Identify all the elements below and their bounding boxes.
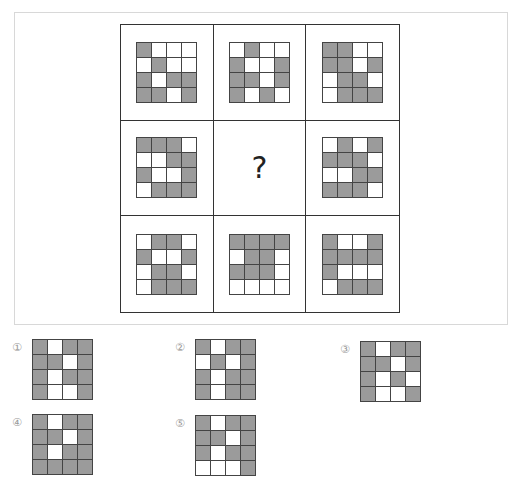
shaded-square xyxy=(241,446,256,461)
option-number: ① xyxy=(12,341,32,355)
empty-square xyxy=(353,43,368,58)
empty-square xyxy=(152,43,167,58)
answer-option-3[interactable]: ③ xyxy=(340,341,421,402)
shaded-square xyxy=(338,58,353,73)
pattern-grid xyxy=(229,42,290,103)
pattern-grid xyxy=(136,234,197,295)
empty-square xyxy=(338,235,353,250)
empty-square xyxy=(211,416,226,431)
empty-square xyxy=(152,73,167,88)
empty-square xyxy=(152,250,167,265)
empty-square xyxy=(376,387,391,402)
shaded-square xyxy=(368,138,383,153)
shaded-square xyxy=(152,138,167,153)
pattern-grid xyxy=(136,42,197,103)
empty-square xyxy=(406,372,421,387)
empty-square xyxy=(391,387,406,402)
shaded-square xyxy=(152,265,167,280)
shaded-square xyxy=(338,153,353,168)
shaded-square xyxy=(152,88,167,103)
empty-square xyxy=(63,385,78,400)
puzzle-cell-r3c2 xyxy=(214,216,307,312)
shaded-square xyxy=(167,235,182,250)
shaded-square xyxy=(353,88,368,103)
option-number: ② xyxy=(175,341,195,355)
pattern-grid xyxy=(229,234,290,295)
shaded-square xyxy=(338,250,353,265)
option-number: ⑤ xyxy=(175,417,195,431)
empty-square xyxy=(196,461,211,476)
empty-square xyxy=(260,280,275,295)
shaded-square xyxy=(241,431,256,446)
shaded-square xyxy=(196,446,211,461)
answer-option-4[interactable]: ④ xyxy=(12,414,93,475)
shaded-square xyxy=(230,58,245,73)
shaded-square xyxy=(182,280,197,295)
shaded-square xyxy=(137,168,152,183)
shaded-square xyxy=(226,416,241,431)
empty-square xyxy=(230,43,245,58)
answer-option-2[interactable]: ② xyxy=(175,339,256,400)
shaded-square xyxy=(63,340,78,355)
shaded-square xyxy=(245,235,260,250)
answer-option-5[interactable]: ⑤ xyxy=(175,415,256,476)
empty-square xyxy=(167,250,182,265)
empty-square xyxy=(353,265,368,280)
shaded-square xyxy=(338,73,353,88)
shaded-square xyxy=(391,342,406,357)
empty-square xyxy=(260,73,275,88)
shaded-square xyxy=(406,357,421,372)
empty-square xyxy=(137,153,152,168)
shaded-square xyxy=(182,168,197,183)
shaded-square xyxy=(260,250,275,265)
question-mark: ? xyxy=(252,153,268,183)
empty-square xyxy=(48,445,63,460)
shaded-square xyxy=(230,73,245,88)
shaded-square xyxy=(353,183,368,198)
shaded-square xyxy=(241,370,256,385)
pattern-grid xyxy=(322,42,383,103)
empty-square xyxy=(391,357,406,372)
shaded-square xyxy=(361,357,376,372)
shaded-square xyxy=(260,88,275,103)
pattern-grid xyxy=(32,339,93,400)
empty-square xyxy=(323,168,338,183)
answer-option-1[interactable]: ① xyxy=(12,339,93,400)
empty-square xyxy=(63,355,78,370)
empty-square xyxy=(323,138,338,153)
shaded-square xyxy=(78,415,93,430)
shaded-square xyxy=(137,43,152,58)
shaded-square xyxy=(182,250,197,265)
shaded-square xyxy=(78,445,93,460)
shaded-square xyxy=(33,430,48,445)
shaded-square xyxy=(167,183,182,198)
shaded-square xyxy=(226,340,241,355)
shaded-square xyxy=(137,138,152,153)
empty-square xyxy=(211,385,226,400)
shaded-square xyxy=(368,280,383,295)
shaded-square xyxy=(361,342,376,357)
shaded-square xyxy=(368,235,383,250)
pattern-grid xyxy=(322,137,383,198)
empty-square xyxy=(211,370,226,385)
shaded-square xyxy=(33,445,48,460)
empty-square xyxy=(167,43,182,58)
empty-square xyxy=(338,265,353,280)
shaded-square xyxy=(353,280,368,295)
puzzle-cell-missing: ? xyxy=(214,121,307,217)
shaded-square xyxy=(323,153,338,168)
shaded-square xyxy=(167,265,182,280)
empty-square xyxy=(275,265,290,280)
shaded-square xyxy=(196,385,211,400)
shaded-square xyxy=(182,88,197,103)
empty-square xyxy=(167,58,182,73)
shaded-square xyxy=(361,387,376,402)
pattern-grid xyxy=(360,341,421,402)
empty-square xyxy=(137,235,152,250)
empty-square xyxy=(230,250,245,265)
shaded-square xyxy=(241,461,256,476)
empty-square xyxy=(245,58,260,73)
empty-square xyxy=(376,372,391,387)
shaded-square xyxy=(368,58,383,73)
shaded-square xyxy=(241,355,256,370)
